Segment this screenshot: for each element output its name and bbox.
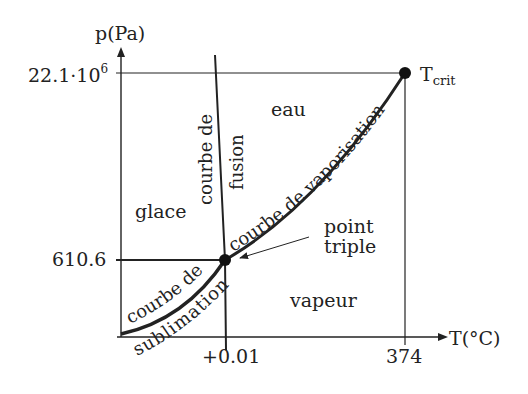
region-label-vapeur: vapeur <box>289 289 358 311</box>
y-tick-critical-pressure: 22.1·106 <box>28 62 108 86</box>
region-label-eau: eau <box>271 98 306 120</box>
fusion-curve-label-1: courbe de <box>195 114 216 205</box>
region-label-glace: glace <box>135 200 186 222</box>
phase-diagram: p(Pa) T(°C) 22.1·106 610.6 +0.01 374 eau… <box>0 0 528 394</box>
y-tick-triple-pressure: 610.6 <box>52 248 106 270</box>
triple-point-label-1: point <box>324 215 374 237</box>
critical-point-marker <box>399 67 411 79</box>
critical-point-label: Tcrit <box>420 63 456 88</box>
triple-point-label-2: triple <box>324 235 376 257</box>
x-tick-triple-temperature: +0.01 <box>202 345 260 367</box>
fusion-curve-label-2: fusion <box>226 134 247 190</box>
y-axis-label: p(Pa) <box>95 22 145 44</box>
fusion-curve <box>215 55 226 350</box>
triple-point-marker <box>219 254 231 266</box>
x-tick-critical-temperature: 374 <box>386 345 422 367</box>
x-axis-label: T(°C) <box>449 327 501 349</box>
